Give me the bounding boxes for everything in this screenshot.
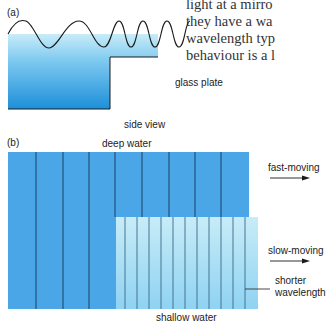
slow-moving-label: slow-moving [268,246,324,256]
panel-b-diagram [8,152,310,309]
shorter-label: shorter [275,276,306,286]
slow-arrow [270,259,310,264]
glass-plate-label: glass plate [175,78,223,88]
water-body [8,34,158,109]
side-view-caption: side view [124,120,165,130]
panel-b-label: (b) [7,138,19,148]
deep-water-label: deep water [102,139,151,149]
shallow-water-label: shallow water [156,313,217,323]
panel-a-diagram [8,20,190,109]
wavelength-label: wavelength [275,288,326,298]
fast-arrow [270,176,310,181]
fast-moving-label: fast-moving [268,163,320,173]
panel-a-label: (a) [7,8,19,18]
